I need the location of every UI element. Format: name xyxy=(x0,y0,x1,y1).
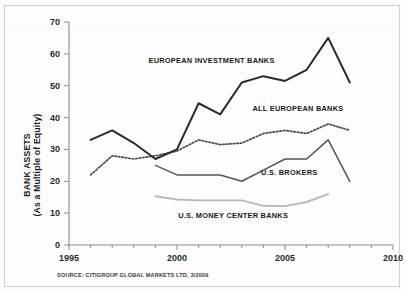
y-axis-subtitle: (As a Multiple of Equity) xyxy=(32,114,42,217)
y-tick-label: 10 xyxy=(50,208,60,218)
x-axis-tick-labels: 1995 2000 2005 2010 xyxy=(59,253,403,263)
y-tick-label: 40 xyxy=(50,113,60,123)
y-tick-label: 70 xyxy=(50,17,60,27)
y-tick-label: 30 xyxy=(50,144,60,154)
x-tick-label: 1995 xyxy=(59,253,79,263)
y-tick-label: 20 xyxy=(50,176,60,186)
y-axis-title-group: BANK ASSETS (As a Multiple of Equity) xyxy=(22,114,42,217)
series-label-european-investment-banks: EUROPEAN INVESTMENT BANKS xyxy=(148,56,274,65)
x-tick-label: 2005 xyxy=(275,253,295,263)
figure-container: 0 10 20 30 40 50 60 70 xyxy=(0,0,406,293)
series-label-us-brokers: U.S. BROKERS xyxy=(261,168,317,177)
y-axis-title: BANK ASSETS xyxy=(22,133,32,197)
series-line-us-brokers xyxy=(155,140,349,181)
y-axis-ticks xyxy=(64,22,69,245)
series-label-all-european-banks: ALL EUROPEAN BANKS xyxy=(252,104,343,113)
x-tick-label: 2000 xyxy=(167,253,187,263)
series-line-us-money-center-banks xyxy=(155,194,328,206)
chart-plot-area: 0 10 20 30 40 50 60 70 xyxy=(0,0,406,293)
y-tick-label: 50 xyxy=(50,81,60,91)
scan-artifact xyxy=(6,28,398,30)
y-tick-label: 60 xyxy=(50,49,60,59)
y-tick-label: 0 xyxy=(55,240,60,250)
x-tick-label: 2010 xyxy=(383,253,403,263)
y-axis-tick-labels: 0 10 20 30 40 50 60 70 xyxy=(50,17,60,250)
source-note: SOURCE: CITIGROUP GLOBAL MARKETS LTD, 3/… xyxy=(57,272,208,278)
x-axis-ticks xyxy=(69,245,393,250)
line-chart-svg: 0 10 20 30 40 50 60 70 xyxy=(0,0,406,293)
series-label-us-money-center-banks: U.S. MONEY CENTER BANKS xyxy=(178,211,288,220)
